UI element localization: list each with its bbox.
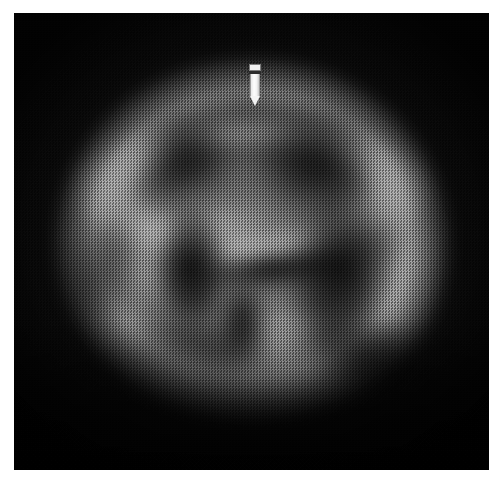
scan-page bbox=[0, 0, 497, 484]
page-margin-right bbox=[489, 0, 497, 484]
page-margin-top bbox=[0, 0, 497, 13]
brain-scan-image[interactable] bbox=[14, 13, 489, 470]
page-margin-left bbox=[0, 0, 14, 484]
page-margin-bottom bbox=[0, 470, 497, 484]
